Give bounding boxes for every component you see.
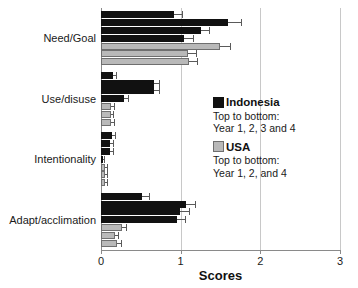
- x-axis-line: [101, 250, 340, 251]
- error-bar: [177, 219, 184, 220]
- error-bar: [220, 46, 230, 47]
- legend-swatch-usa-icon: [213, 141, 224, 152]
- bar-usa-year1-use-disuse: [101, 103, 111, 110]
- error-bar-cap: [115, 132, 116, 139]
- bar-usa-year4-adapt-acclimation: [101, 240, 117, 247]
- x-tick-label-3: 3: [337, 255, 343, 267]
- bar-usa-year2-need-goal: [101, 50, 188, 57]
- bar-row: [101, 87, 340, 94]
- error-bar-cap: [107, 164, 108, 171]
- bar-indonesia-year2-use-disuse: [101, 80, 154, 87]
- error-bar-cap: [121, 240, 122, 247]
- x-tick-mark-0: [101, 250, 102, 254]
- x-tick-label-0: 0: [98, 255, 104, 267]
- bar-row: [101, 58, 340, 65]
- bar-indonesia-year4-use-disuse: [101, 95, 124, 102]
- error-bar: [189, 61, 197, 62]
- legend-label-indonesia: Indonesia: [226, 96, 280, 109]
- error-bar: [174, 14, 182, 15]
- error-bar: [228, 22, 241, 23]
- bar-usa-year4-need-goal: [101, 58, 189, 65]
- bar-row: [101, 216, 340, 223]
- error-bar-cap: [185, 216, 186, 223]
- bar-row: [101, 27, 340, 34]
- bar-usa-year1-adapt-acclimation: [101, 224, 122, 231]
- bar-indonesia-year2-intentionality: [101, 140, 110, 147]
- error-bar-cap: [116, 72, 117, 79]
- bar-usa-year2-adapt-acclimation: [101, 232, 115, 239]
- x-tick-mark-2: [260, 250, 261, 254]
- bar-indonesia-year2-adapt-acclimation: [101, 201, 186, 208]
- error-bar: [184, 38, 194, 39]
- error-bar: [180, 211, 189, 212]
- bar-indonesia-year1-intentionality: [101, 132, 112, 139]
- error-bar-cap: [182, 11, 183, 18]
- error-bar-cap: [230, 43, 231, 50]
- bar-row: [101, 19, 340, 26]
- gridline-3: [340, 8, 341, 250]
- bar-indonesia-year2-need-goal: [101, 19, 228, 26]
- x-tick-label-2: 2: [257, 255, 263, 267]
- bar-indonesia-year4-need-goal: [101, 35, 184, 42]
- legend-note-indonesia-line2: Year 1, 2, 3 and 4: [213, 122, 296, 135]
- bar-indonesia-year3-intentionality: [101, 148, 110, 155]
- error-bar-cap: [209, 27, 210, 34]
- legend-entry-usa: USA Top to bottom: Year 1, 2, and 4: [213, 141, 296, 180]
- x-axis-title: Scores: [101, 268, 340, 283]
- error-bar-cap: [126, 224, 127, 231]
- category-label-intentionality: Intentionality: [34, 153, 96, 165]
- bar-indonesia-year1-use-disuse: [101, 72, 113, 79]
- error-bar: [188, 53, 196, 54]
- bar-indonesia-year3-adapt-acclimation: [101, 208, 180, 215]
- bar-indonesia-year1-need-goal: [101, 11, 174, 18]
- error-bar-cap: [193, 35, 194, 42]
- legend-head-indonesia: Indonesia: [213, 96, 296, 109]
- x-tick-mark-1: [181, 250, 182, 254]
- error-bar-cap: [159, 80, 160, 87]
- error-bar-cap: [114, 119, 115, 126]
- bar-usa-year4-use-disuse: [101, 119, 111, 126]
- x-tick-mark-3: [340, 250, 341, 254]
- error-bar-cap: [114, 103, 115, 110]
- bar-usa-year2-use-disuse: [101, 111, 111, 118]
- bar-row: [101, 224, 340, 231]
- bar-indonesia-year1-adapt-acclimation: [101, 193, 142, 200]
- bar-row: [101, 72, 340, 79]
- bar-row: [101, 35, 340, 42]
- error-bar: [186, 204, 195, 205]
- bar-row: [101, 240, 340, 247]
- error-bar-cap: [107, 171, 108, 178]
- bar-row: [101, 208, 340, 215]
- legend-note-usa-line2: Year 1, 2, and 4: [213, 167, 296, 180]
- bar-usa-year1-need-goal: [101, 43, 220, 50]
- legend-label-usa: USA: [226, 141, 250, 154]
- error-bar-cap: [196, 50, 197, 57]
- bar-row: [101, 193, 340, 200]
- error-bar-cap: [118, 232, 119, 239]
- bar-indonesia-year4-adapt-acclimation: [101, 216, 177, 223]
- error-bar-cap: [195, 201, 196, 208]
- error-bar-cap: [159, 87, 160, 94]
- error-bar: [201, 30, 209, 31]
- category-label-use-disuse: Use/disuse: [42, 93, 96, 105]
- legend-swatch-indonesia-icon: [213, 97, 224, 108]
- legend-entry-indonesia: Indonesia Top to bottom: Year 1, 2, 3 an…: [213, 96, 296, 135]
- bar-indonesia-year3-need-goal: [101, 27, 201, 34]
- bar-row: [101, 11, 340, 18]
- bar-row: [101, 43, 340, 50]
- error-bar-cap: [197, 58, 198, 65]
- bar-row: [101, 232, 340, 239]
- bar-row: [101, 80, 340, 87]
- chart-legend: Indonesia Top to bottom: Year 1, 2, 3 an…: [213, 96, 296, 185]
- error-bar-cap: [107, 179, 108, 186]
- category-label-adapt-acclimation: Adapt/acclimation: [9, 214, 96, 226]
- legend-note-indonesia-line1: Top to bottom:: [213, 110, 296, 123]
- category-label-need-goal: Need/Goal: [43, 32, 96, 44]
- error-bar-cap: [149, 193, 150, 200]
- legend-note-usa-line1: Top to bottom:: [213, 154, 296, 167]
- chart-container: 0123 Need/GoalUse/disuseIntentionalityAd…: [0, 0, 358, 288]
- error-bar-cap: [128, 95, 129, 102]
- error-bar-cap: [104, 156, 105, 163]
- x-tick-label-1: 1: [178, 255, 184, 267]
- error-bar-cap: [241, 19, 242, 26]
